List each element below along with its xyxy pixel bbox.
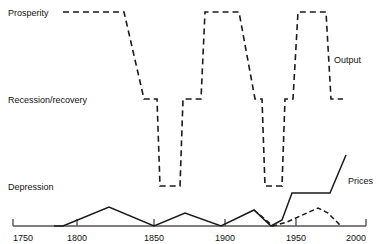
x-tick-label-1750: 1750 [13,233,33,243]
x-tick-label-1950: 1950 [286,233,306,243]
x-tick-labels: 1750 1800 1850 1900 1950 2000 [13,233,366,243]
business-cycle-chart: 1750 1800 1850 1900 1950 2000 Prosperity… [0,0,381,244]
category-label-depression: Depression [8,182,54,192]
series-label-output: Output [334,55,362,65]
series-prices: Prices [54,155,374,226]
x-tick-label-2000: 2000 [346,233,366,243]
chart-canvas: 1750 1800 1850 1900 1950 2000 Prosperity… [0,0,381,244]
category-label-recession-recovery: Recession/recovery [8,95,88,105]
x-tick-label-1850: 1850 [144,233,164,243]
series-label-prices: Prices [348,176,374,186]
category-labels: Prosperity Recession/recovery Depression [8,8,88,192]
category-label-prosperity: Prosperity [8,8,49,18]
prices-curve [54,155,346,226]
x-tick-label-1800: 1800 [67,233,87,243]
series-output: Output [63,12,362,186]
x-tick-label-1900: 1900 [215,233,235,243]
output-curve [63,12,343,186]
